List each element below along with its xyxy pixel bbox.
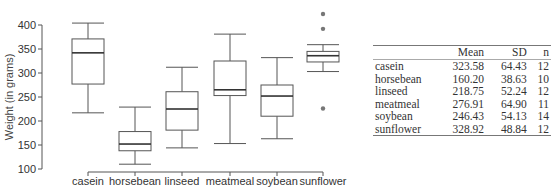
y-tick-label: 200 bbox=[18, 115, 36, 127]
box-plot: 100150200250300350400 caseinhorsebeanlin… bbox=[0, 0, 370, 189]
summary-table: MeanSDn casein323.5864.4312horsebean160.… bbox=[373, 45, 551, 136]
y-axis-label: Weight (in grams) bbox=[3, 54, 15, 141]
x-tick-label: meatmeal bbox=[206, 175, 254, 187]
x-tick-label: horsebean bbox=[109, 175, 161, 187]
row-label: meatmeal bbox=[373, 98, 435, 111]
boxes bbox=[72, 12, 339, 164]
table-row: horsebean160.2038.6310 bbox=[373, 73, 551, 86]
table-cell: 64.90 bbox=[486, 98, 529, 111]
row-label: sunflower bbox=[373, 123, 435, 136]
x-tick-label: soybean bbox=[256, 175, 298, 187]
table-cell: 64.43 bbox=[486, 60, 529, 73]
table-body: casein323.5864.4312horsebean160.2038.631… bbox=[373, 60, 551, 136]
row-label: horsebean bbox=[373, 73, 435, 86]
y-tick-label: 100 bbox=[18, 163, 36, 175]
y-tick-label: 150 bbox=[18, 139, 36, 151]
y-axis: 100150200250300350400 bbox=[18, 19, 42, 175]
column-header: SD bbox=[486, 46, 529, 60]
y-tick-label: 400 bbox=[18, 19, 36, 31]
x-axis: caseinhorsebeanlinseedmeatmealsoybeansun… bbox=[72, 172, 347, 187]
table-cell: 276.91 bbox=[435, 98, 486, 111]
y-tick-label: 350 bbox=[18, 43, 36, 55]
table-cell: 246.43 bbox=[435, 110, 486, 123]
table-cell: 52.24 bbox=[486, 85, 529, 98]
box-sunflower bbox=[307, 12, 339, 111]
table-row: casein323.5864.4312 bbox=[373, 60, 551, 73]
x-tick-label: linseed bbox=[165, 175, 200, 187]
x-tick-label: sunflower bbox=[299, 175, 346, 187]
table-cell: 54.13 bbox=[486, 110, 529, 123]
outlier-point bbox=[321, 106, 325, 110]
table-cell: 11 bbox=[529, 98, 551, 111]
table-cell: 160.20 bbox=[435, 73, 486, 86]
table-cell: 38.63 bbox=[486, 73, 529, 86]
table-cell: 12 bbox=[529, 123, 551, 136]
x-tick-label: casein bbox=[72, 175, 104, 187]
table-row: meatmeal276.9164.9011 bbox=[373, 98, 551, 111]
table-cell: 12 bbox=[529, 60, 551, 73]
row-label: casein bbox=[373, 60, 435, 73]
table-cell: 10 bbox=[529, 73, 551, 86]
outlier-point bbox=[321, 12, 325, 16]
table-header-row: MeanSDn bbox=[373, 46, 551, 60]
table-cell: 328.92 bbox=[435, 123, 486, 136]
box-casein bbox=[72, 23, 104, 113]
table-row: soybean246.4354.1314 bbox=[373, 110, 551, 123]
table-cell: 323.58 bbox=[435, 60, 486, 73]
table-row: linseed218.7552.2412 bbox=[373, 85, 551, 98]
row-label: soybean bbox=[373, 110, 435, 123]
table-cell: 218.75 bbox=[435, 85, 486, 98]
box-horsebean bbox=[119, 107, 151, 164]
box-soybean bbox=[261, 58, 293, 139]
column-header: Mean bbox=[435, 46, 486, 60]
column-header bbox=[373, 46, 435, 60]
column-header: n bbox=[529, 46, 551, 60]
y-tick-label: 250 bbox=[18, 91, 36, 103]
table-row: sunflower328.9248.8412 bbox=[373, 123, 551, 136]
box-linseed bbox=[166, 67, 198, 148]
table-cell: 12 bbox=[529, 85, 551, 98]
row-label: linseed bbox=[373, 85, 435, 98]
outlier-point bbox=[321, 27, 325, 31]
box-meatmeal bbox=[214, 34, 246, 143]
y-tick-label: 300 bbox=[18, 67, 36, 79]
table-cell: 14 bbox=[529, 110, 551, 123]
table-cell: 48.84 bbox=[486, 123, 529, 136]
